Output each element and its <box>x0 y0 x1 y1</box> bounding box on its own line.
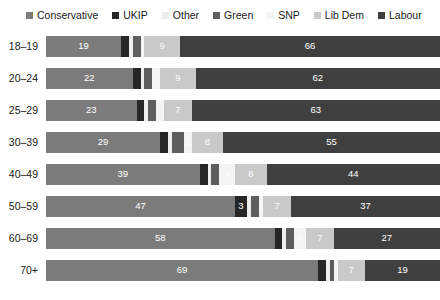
legend-item-snp[interactable]: SNP <box>267 10 300 21</box>
bar-segment-value: 55 <box>326 137 337 147</box>
legend-item-label: Lib Dem <box>325 10 364 21</box>
bar-segment-conservative[interactable]: 23 <box>46 100 137 121</box>
bar-segment-ukip[interactable] <box>160 132 168 153</box>
stacked-bar[interactable]: 583727 <box>46 228 440 249</box>
bar-segment-lib-dem[interactable]: 8 <box>192 132 224 153</box>
legend-swatch-icon <box>112 12 119 19</box>
legend-item-label: Conservative <box>37 10 98 21</box>
y-axis-tick-label: 40–49 <box>0 168 46 180</box>
legend-item-lib-dem[interactable]: Lib Dem <box>314 10 364 21</box>
bar-segment-value: 9 <box>175 73 180 83</box>
bar-segment-lib-dem[interactable]: 7 <box>338 260 366 281</box>
bar-segment-ukip[interactable] <box>121 36 129 57</box>
legend-item-labour[interactable]: Labour <box>378 10 422 21</box>
bar-segment-lib-dem[interactable]: 7 <box>306 228 334 249</box>
bar-segment-value: 9 <box>160 41 165 51</box>
bar-segment-labour[interactable]: 27 <box>334 228 440 249</box>
bar-segment-labour[interactable]: 55 <box>223 132 440 153</box>
bar-segment-value: 37 <box>360 201 371 211</box>
bar-segment-ukip[interactable] <box>275 228 283 249</box>
bar-segment-green[interactable] <box>286 228 294 249</box>
bar-segment-value: 39 <box>118 169 129 179</box>
bar-segment-ukip[interactable]: 3 <box>235 196 247 217</box>
chart-row: 60–69583727 <box>0 222 440 254</box>
bar-segment-labour[interactable]: 19 <box>365 260 440 281</box>
bar-segment-ukip[interactable] <box>137 100 145 121</box>
legend-swatch-icon <box>26 12 33 19</box>
bar-segment-labour[interactable]: 44 <box>267 164 440 185</box>
bar-segment-value: 7 <box>175 105 180 115</box>
bar-segment-labour[interactable]: 62 <box>196 68 440 89</box>
bar-segment-green[interactable] <box>172 132 184 153</box>
bar-segment-value: 69 <box>177 265 188 275</box>
y-axis-tick-label: 30–39 <box>0 136 46 148</box>
bar-segment-ukip[interactable] <box>133 68 141 89</box>
bar-segment-value: 62 <box>313 73 324 83</box>
legend-item-label: SNP <box>278 10 300 21</box>
bar-segment-conservative[interactable]: 69 <box>46 260 318 281</box>
legend-swatch-icon <box>378 12 385 19</box>
stacked-bar[interactable]: 69719 <box>46 260 440 281</box>
bar-segment-snp[interactable]: 4 <box>219 164 235 185</box>
bar-segment-lib-dem[interactable]: 9 <box>160 68 195 89</box>
bar-segment-value: 66 <box>305 41 316 51</box>
bar-segment-lib-dem[interactable]: 8 <box>235 164 267 185</box>
bar-segment-ukip[interactable] <box>318 260 326 281</box>
stacked-bar[interactable]: 19966 <box>46 36 440 57</box>
stacked-bar-chart: ConservativeUKIPOtherGreenSNPLib DemLabo… <box>0 0 440 300</box>
bar-segment-value: 19 <box>78 41 89 51</box>
chart-row: 20–2422962 <box>0 62 440 94</box>
bar-segment-lib-dem[interactable]: 9 <box>144 36 179 57</box>
legend-item-ukip[interactable]: UKIP <box>112 10 148 21</box>
bar-segment-conservative[interactable]: 22 <box>46 68 133 89</box>
bar-segment-value: 27 <box>381 233 392 243</box>
legend-item-label: Green <box>224 10 253 21</box>
bar-segment-value: 19 <box>397 265 408 275</box>
bar-segment-snp[interactable]: 3 <box>294 228 306 249</box>
bar-segment-green[interactable] <box>133 36 141 57</box>
bar-segment-conservative[interactable]: 29 <box>46 132 160 153</box>
bar-segment-lib-dem[interactable]: 7 <box>263 196 291 217</box>
bar-segment-ukip[interactable] <box>200 164 208 185</box>
bar-segment-green[interactable] <box>144 68 152 89</box>
bar-segment-green[interactable] <box>211 164 219 185</box>
legend-item-conservative[interactable]: Conservative <box>26 10 98 21</box>
bar-segment-labour[interactable]: 37 <box>291 196 440 217</box>
bar-segment-value: 44 <box>348 169 359 179</box>
stacked-bar[interactable]: 22962 <box>46 68 440 89</box>
bar-segment-value: 29 <box>98 137 109 147</box>
bar-segment-labour[interactable]: 66 <box>180 36 440 57</box>
stacked-bar[interactable]: 23763 <box>46 100 440 121</box>
y-axis-tick-label: 60–69 <box>0 232 46 244</box>
bar-segment-conservative[interactable]: 39 <box>46 164 200 185</box>
stacked-bar[interactable]: 394844 <box>46 164 440 185</box>
bar-segment-snp[interactable]: 2 <box>184 132 192 153</box>
bar-segment-value: 47 <box>135 201 146 211</box>
bar-segment-value: 23 <box>86 105 97 115</box>
bar-segment-value: 2 <box>185 137 190 147</box>
legend-item-green[interactable]: Green <box>213 10 253 21</box>
y-axis-tick-label: 25–29 <box>0 104 46 116</box>
bar-segment-value: 22 <box>84 73 95 83</box>
bar-segment-value: 8 <box>248 169 253 179</box>
bar-segment-green[interactable] <box>148 100 156 121</box>
stacked-bar[interactable]: 4731737 <box>46 196 440 217</box>
bar-segment-conservative[interactable]: 47 <box>46 196 235 217</box>
bar-segment-value: 3 <box>238 201 243 211</box>
chart-row: 25–2923763 <box>0 94 440 126</box>
bar-segment-conservative[interactable]: 58 <box>46 228 275 249</box>
bar-segment-snp[interactable] <box>156 100 164 121</box>
stacked-bar[interactable]: 292855 <box>46 132 440 153</box>
chart-plot-area: 18–191996620–242296225–292376330–3929285… <box>0 30 440 298</box>
y-axis-tick-label: 18–19 <box>0 40 46 52</box>
bar-segment-conservative[interactable]: 19 <box>46 36 121 57</box>
bar-segment-value: 7 <box>274 201 279 211</box>
bar-segment-value: 7 <box>349 265 354 275</box>
bar-segment-lib-dem[interactable]: 7 <box>164 100 192 121</box>
y-axis-tick-label: 70+ <box>0 264 46 276</box>
bar-segment-snp[interactable] <box>152 68 160 89</box>
bar-segment-labour[interactable]: 63 <box>192 100 440 121</box>
legend-item-other[interactable]: Other <box>162 10 199 21</box>
legend-item-label: UKIP <box>123 10 148 21</box>
bar-segment-green[interactable] <box>251 196 259 217</box>
